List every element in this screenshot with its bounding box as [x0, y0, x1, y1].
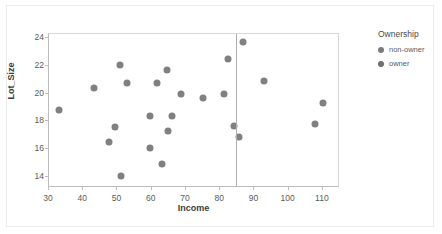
y-axis-tick-label: 24	[35, 32, 44, 42]
x-axis-tick-label: 30	[43, 193, 52, 203]
y-axis-label: Lot_Size	[6, 62, 16, 99]
data-point	[220, 90, 227, 97]
data-point	[146, 144, 153, 151]
data-point	[312, 121, 319, 128]
data-point	[158, 161, 165, 168]
x-axis-tick-label: 110	[315, 193, 329, 203]
x-axis-tick-label: 60	[146, 193, 155, 203]
x-axis-tick-label: 80	[214, 193, 223, 203]
y-axis-tick-label: 16	[35, 143, 44, 153]
legend-marker-icon	[378, 61, 384, 67]
data-point	[168, 112, 175, 119]
legend: Ownership non-ownerowner	[378, 29, 438, 73]
legend-item[interactable]: owner	[378, 59, 438, 68]
legend-marker-icon	[378, 47, 384, 53]
data-point	[178, 90, 185, 97]
x-axis-tick-label: 40	[78, 193, 87, 203]
y-axis-tick-label: 14	[35, 171, 44, 181]
data-point	[105, 139, 112, 146]
data-point	[91, 85, 98, 92]
data-point	[239, 39, 246, 46]
y-axis-tick-label: 18	[35, 115, 44, 125]
data-point	[319, 100, 326, 107]
vertical-reference-line	[236, 34, 237, 186]
y-axis-tick-label: 22	[35, 60, 44, 70]
legend-items: non-ownerowner	[378, 45, 438, 68]
x-axis-tick-label: 90	[249, 193, 258, 203]
data-point	[55, 107, 62, 114]
data-point	[225, 55, 232, 62]
data-point	[124, 79, 131, 86]
data-point	[117, 61, 124, 68]
data-point	[165, 128, 172, 135]
x-axis-tick-label: 50	[112, 193, 121, 203]
x-axis-tick-labels: 30405060708090100110	[48, 188, 339, 204]
y-axis-tick-label: 20	[35, 88, 44, 98]
legend-item-label: owner	[389, 59, 409, 68]
data-point	[153, 79, 160, 86]
scatter-plot-figure: 141618202224 Lot_Size 304050607080901001…	[0, 0, 442, 234]
legend-item-label: non-owner	[389, 45, 424, 54]
data-point	[111, 123, 118, 130]
x-axis-tick-label: 70	[180, 193, 189, 203]
legend-title: Ownership	[378, 29, 438, 39]
data-point	[147, 112, 154, 119]
x-axis-label: Income	[48, 203, 339, 213]
y-axis-tick-labels: 141618202224	[22, 33, 44, 187]
x-axis-tick-label: 100	[281, 193, 295, 203]
data-point	[117, 172, 124, 179]
data-point	[200, 94, 207, 101]
plot-area	[48, 33, 339, 187]
data-point	[163, 67, 170, 74]
data-point	[260, 78, 267, 85]
legend-item[interactable]: non-owner	[378, 45, 438, 54]
